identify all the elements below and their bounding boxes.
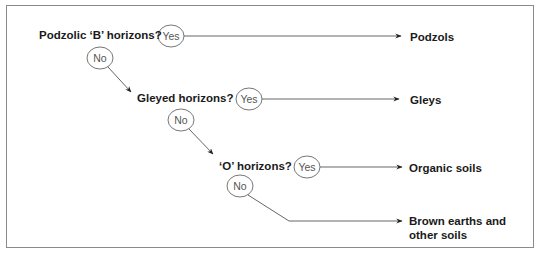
result-organic-soils: Organic soils bbox=[409, 161, 482, 175]
no-label-2: No bbox=[168, 115, 194, 126]
result-brown-earths-line2: other soils bbox=[409, 228, 467, 242]
arrow-no-2 bbox=[189, 129, 213, 154]
result-brown-earths-line1: Brown earths and bbox=[409, 214, 506, 228]
question-gleyed: Gleyed horizons? bbox=[137, 93, 234, 105]
result-podzols: Podzols bbox=[410, 30, 454, 44]
arrow-no-1 bbox=[108, 67, 131, 92]
question-podzolic: Podzolic ‘B’ horizons? bbox=[39, 30, 162, 42]
arrow-no-3 bbox=[248, 195, 402, 221]
no-label-1: No bbox=[87, 53, 113, 64]
no-label-3: No bbox=[227, 181, 253, 192]
result-gleys: Gleys bbox=[410, 93, 441, 107]
yes-label-3: Yes bbox=[294, 162, 320, 173]
yes-label-2: Yes bbox=[236, 94, 262, 105]
yes-label-1: Yes bbox=[158, 31, 184, 42]
question-o-horizons: ‘O’ horizons? bbox=[219, 161, 292, 173]
